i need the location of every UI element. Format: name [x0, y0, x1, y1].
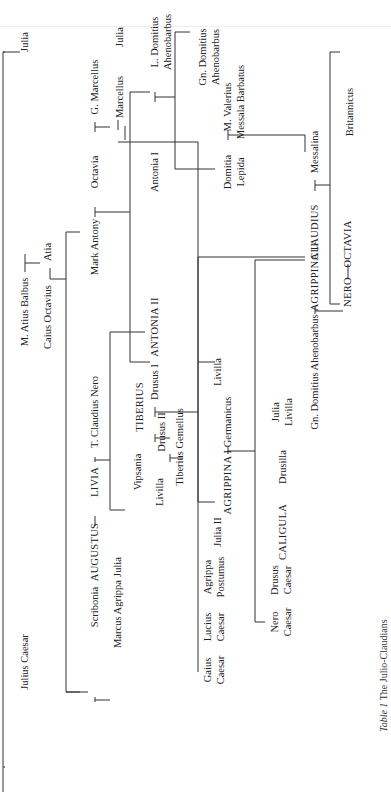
person-drusus-i: Drusus I	[149, 364, 161, 400]
person-t-claudius-nero: T. Claudius Nero	[89, 376, 101, 448]
person-gaius-caesar-2: Caesar	[215, 656, 227, 685]
person-drusus-caesar: Drusus	[269, 565, 281, 595]
person-messalina: Messalina	[309, 131, 321, 174]
person-lucius-caesar-2: Caesar	[215, 613, 227, 642]
person-julia-ii: Julia II	[212, 517, 224, 546]
caption-label: Table 1	[378, 703, 389, 732]
person-octavia-2: OCTAVIA	[342, 220, 354, 267]
person-messala-barbatus: Messala Barbatus	[235, 65, 247, 139]
person-julia-daughter: Julia	[112, 557, 124, 577]
person-gn-domitius-ahenobarbus-father: Gn. Domitius Ahenobarbus	[309, 314, 321, 429]
person-gn-domitius-ahenobarbus: Ahenobarbus	[210, 29, 222, 85]
caption-title: The Julio-Claudians	[378, 619, 389, 700]
person-g-marcellus: G. Marcellus	[89, 60, 101, 115]
person-tiberius-gemellus: Tiberius Gemellus	[174, 408, 186, 486]
bracket-antony-children	[130, 92, 150, 362]
person-scribonia: Scribonia	[89, 587, 101, 627]
person-nero-caesar-2: Caesar	[282, 608, 294, 637]
person-agrippa-postumus: Agrippa	[202, 560, 214, 594]
table-caption: Table 1 The Julio-Claudians	[378, 619, 389, 732]
person-augustus: AUGUSTUS	[89, 523, 101, 581]
person-octavia: Octavia	[89, 156, 101, 189]
person-britannicus: Britannicus	[344, 88, 356, 136]
person-l-domitius-ahenobarbus: Ahenobarbus	[162, 14, 174, 70]
tree-connector-lines	[0, 0, 391, 792]
bracket-claudius-children	[330, 52, 340, 304]
person-domitia: Domitia	[222, 155, 234, 189]
person-agrippina-ii: AGRIPPINA II	[309, 243, 321, 312]
person-vipsania: Vipsania	[132, 454, 144, 491]
person-caius-octavius: Caius Octavius	[42, 285, 54, 349]
person-marcus-agrippa: Marcus Agrippa	[112, 580, 124, 648]
bracket-atia-children	[66, 232, 80, 692]
person-m-valerius: M. Valerius	[222, 83, 234, 132]
person-livilla-2: Livilla	[154, 478, 166, 506]
person-marcellus: Marcellus	[114, 76, 126, 118]
person-nero-caesar: Nero	[269, 612, 281, 633]
person-tiberius: TIBERIUS	[134, 382, 146, 432]
person-julia-wife-of-marcellus: Julia	[114, 27, 126, 47]
person-domitia-lepida: Lepida	[235, 157, 247, 186]
bracket-antonia-children	[175, 32, 190, 169]
person-nero: NERO	[342, 277, 354, 307]
family-tree-diagram: Julius Caesar Julia M. Atius Balbus Atia…	[0, 0, 391, 792]
person-germanicus: Germanicus	[222, 397, 234, 448]
person-gn-domitius: Gn. Domitius	[197, 28, 209, 85]
person-julia-livilla-2: Livilla	[283, 398, 295, 426]
person-julius-caesar: Julius Caesar	[19, 634, 31, 690]
person-agrippa-postumus-2: Postumus	[215, 557, 227, 598]
connector-caesar-julia	[3, 52, 5, 767]
person-drusus-caesar-2: Caesar	[282, 566, 294, 595]
person-drusilla: Drusilla	[277, 450, 289, 484]
person-m-atius-balbus: M. Atius Balbus	[19, 278, 31, 347]
person-lucius-caesar: Lucius	[202, 613, 214, 642]
person-l-domitius: L. Domitius	[149, 17, 161, 68]
person-julia: Julia	[19, 32, 31, 52]
person-agrippina-i: AGRIPPINA I	[222, 450, 234, 515]
person-drusus-ii: Drusus II	[156, 412, 168, 451]
person-mark-antony: Mark Antony	[89, 219, 101, 275]
person-atia: Atia	[42, 243, 54, 261]
person-julia-livilla: Julia	[270, 402, 282, 422]
person-livia: LIVIA	[89, 467, 101, 497]
person-caligula: CALIGULA	[277, 504, 289, 560]
person-antonia-ii: ANTONIA II	[149, 297, 161, 357]
person-antonia-i: Antonia I	[149, 152, 161, 192]
person-gaius-caesar: Gaius	[202, 658, 214, 683]
person-livilla: Livilla	[212, 358, 224, 386]
